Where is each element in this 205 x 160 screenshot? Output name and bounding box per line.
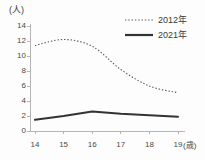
y-tick-label: 12 (10, 37, 26, 45)
chart-legend: 2012年 2021年 (124, 14, 187, 41)
legend-label-2012: 2012年 (158, 15, 187, 25)
x-tick-label: 14 (26, 141, 44, 149)
y-tick-label: 4 (10, 97, 26, 105)
series-line-2021年 (35, 112, 178, 120)
legend-item-2021: 2021年 (124, 29, 187, 41)
y-tick-label: 10 (10, 52, 26, 60)
x-tick-label: 16 (83, 141, 101, 149)
x-axis-unit-label: (歳) (183, 141, 196, 151)
y-tick-label: 0 (10, 127, 26, 135)
x-tick-label: 15 (55, 141, 73, 149)
x-tick-label: 17 (112, 141, 130, 149)
legend-item-2012: 2012年 (124, 14, 187, 26)
y-tick-label: 14 (10, 22, 26, 30)
solid-line-swatch (124, 30, 154, 40)
y-tick-label: 8 (10, 67, 26, 75)
series-line-2012年 (35, 39, 178, 92)
x-tick-label: 18 (140, 141, 158, 149)
legend-label-2021: 2021年 (158, 30, 187, 40)
data-series (35, 39, 178, 119)
line-chart: (人) 02468101214 141516171819 (歳) 2012年 2… (0, 0, 205, 160)
y-tick-label: 6 (10, 82, 26, 90)
dotted-line-swatch (124, 15, 154, 25)
y-tick-label: 2 (10, 112, 26, 120)
